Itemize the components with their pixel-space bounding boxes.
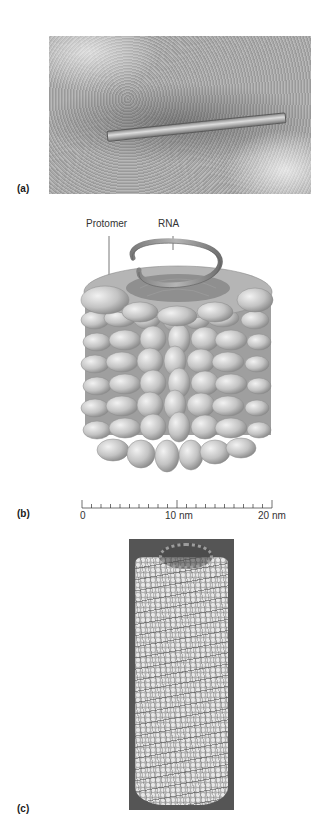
scale-bar-ticks [80,500,280,510]
space-filling-model-panel-c [129,539,234,810]
scale-tick-10nm: 10 nm [165,510,193,521]
virus-rod-image [106,112,286,142]
panel-label-a: (a) [17,183,29,194]
panel-label-c: (c) [17,803,29,814]
micrograph-panel-a [49,36,311,194]
capsid-top-ring [159,543,213,569]
scale-tick-0: 0 [80,510,86,521]
panel-label-b: (b) [17,508,30,519]
capsid-model-image [135,557,228,805]
capsid-diagram-panel-b [65,200,291,500]
scale-tick-20nm: 20 nm [258,510,286,521]
rna-callout: RNA [158,218,179,229]
protomer-callout: Protomer [86,218,127,229]
capsid-diagram-svg [65,200,291,500]
